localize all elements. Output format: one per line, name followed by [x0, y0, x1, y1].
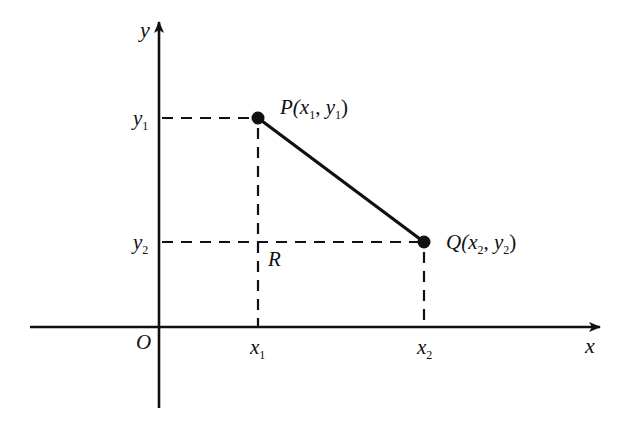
tick-y1: y1 — [131, 106, 148, 133]
coordinate-diagram: y x O y1 y2 x1 x2 R P(x1, y1) Q(x2, y2) — [0, 0, 617, 433]
dashed-guides — [162, 118, 424, 327]
segment-pq — [258, 118, 424, 242]
point-p-label: P(x1, y1) — [279, 95, 348, 122]
x-axis-label: x — [584, 333, 595, 358]
tick-x2: x2 — [416, 335, 432, 362]
point-q — [418, 236, 431, 249]
tick-y2: y2 — [131, 230, 148, 257]
tick-x1: x1 — [249, 335, 265, 362]
origin-label: O — [136, 330, 151, 354]
point-r-label: R — [267, 247, 281, 271]
point-q-label: Q(x2, y2) — [446, 230, 516, 257]
point-p — [252, 112, 265, 125]
y-axis-label: y — [138, 17, 150, 42]
